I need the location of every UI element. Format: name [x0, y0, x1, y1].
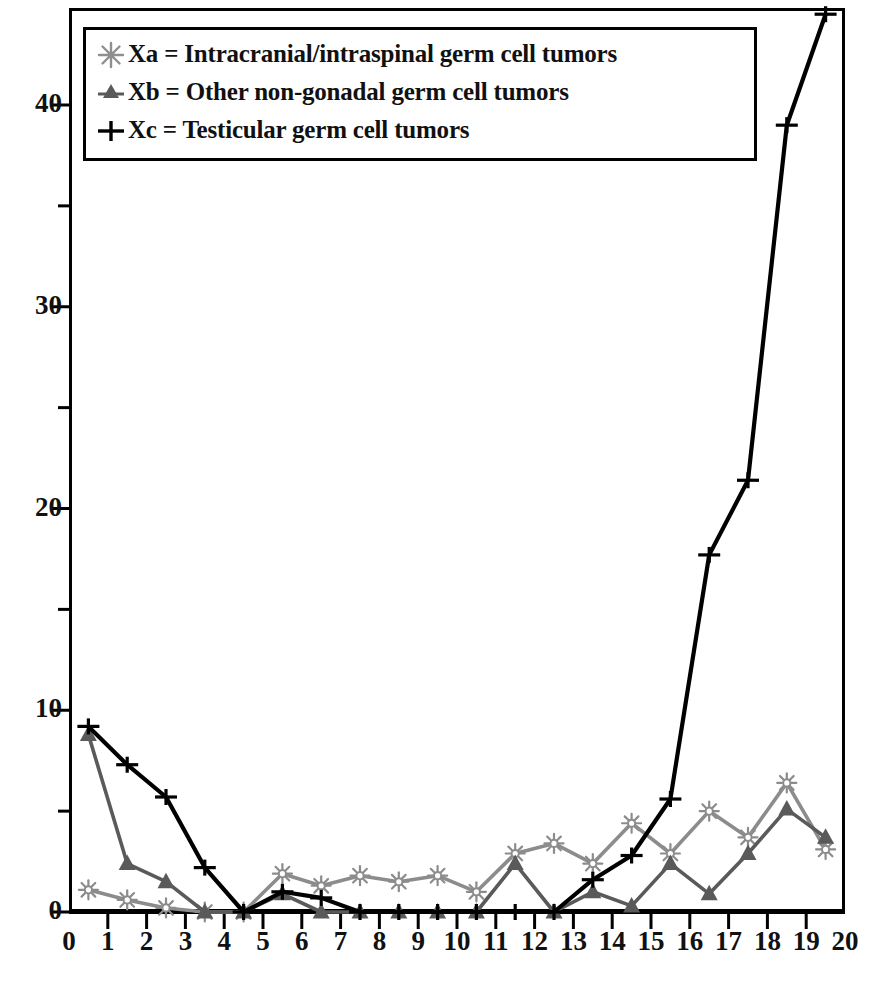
legend-entry-xb: Xb = Other non-gonadal germ cell tumors [96, 74, 744, 112]
x-axis-tick-label: 17 [709, 928, 749, 955]
x-axis-tick-label: 12 [515, 928, 555, 955]
x-axis-tick-label: 7 [321, 928, 361, 955]
x-axis-tick-label: 13 [553, 928, 593, 955]
x-axis-tick-label: 4 [204, 928, 244, 955]
legend-label-xb: Xb = Other non-gonadal germ cell tumors [128, 78, 569, 108]
y-axis-tick-label: 40 [4, 90, 62, 117]
x-axis-tick-label: 19 [786, 928, 826, 955]
y-axis-labels: 010203040 [0, 0, 62, 988]
plus-marker-icon [96, 116, 126, 146]
y-axis-tick-label: 0 [4, 897, 62, 924]
x-axis-tick-label: 10 [437, 928, 477, 955]
chart-figure: 010203040 012345678910111213141516171819… [0, 0, 869, 988]
starburst-marker-icon [96, 40, 126, 70]
legend-label-xc: Xc = Testicular germ cell tumors [128, 116, 469, 146]
x-axis-tick-label: 0 [49, 928, 89, 955]
x-axis-tick-label: 9 [398, 928, 438, 955]
y-axis-tick-label: 10 [4, 695, 62, 722]
x-axis-tick-label: 20 [825, 928, 865, 955]
x-axis-tick-label: 15 [631, 928, 671, 955]
x-axis-tick-label: 2 [127, 928, 167, 955]
x-axis-tick-label: 8 [359, 928, 399, 955]
x-axis-tick-label: 6 [282, 928, 322, 955]
x-axis-tick-label: 3 [165, 928, 205, 955]
series-xb [80, 725, 834, 918]
x-axis-tick-label: 11 [476, 928, 516, 955]
legend-entry-xc: Xc = Testicular germ cell tumors [96, 112, 744, 150]
triangle-marker-icon [96, 78, 126, 108]
x-axis-tick-label: 5 [243, 928, 283, 955]
x-axis-tick-label: 1 [88, 928, 128, 955]
x-axis-labels: 01234567891011121314151617181920 [0, 928, 869, 972]
legend-label-xa: Xa = Intracranial/intraspinal germ cell … [128, 40, 617, 70]
legend-entry-xa: Xa = Intracranial/intraspinal germ cell … [96, 36, 744, 74]
x-axis-tick-label: 18 [747, 928, 787, 955]
y-axis-tick-label: 30 [4, 292, 62, 319]
chart-legend: Xa = Intracranial/intraspinal germ cell … [83, 27, 757, 161]
y-axis-tick-label: 20 [4, 494, 62, 521]
x-axis-tick-label: 14 [592, 928, 632, 955]
x-axis-tick-label: 16 [670, 928, 710, 955]
